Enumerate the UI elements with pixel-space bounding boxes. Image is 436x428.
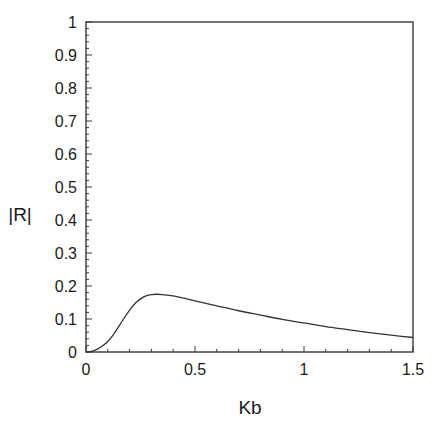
y-tick-label: 0.6 [55, 146, 77, 163]
y-axis-ticks [86, 22, 92, 352]
x-axis-ticks [86, 346, 413, 352]
y-tick-label: 0.5 [55, 179, 77, 196]
y-tick-label: 1 [68, 14, 77, 31]
y-tick-label: 0.2 [55, 278, 77, 295]
plot-frame [86, 22, 413, 352]
reflection-magnitude-curve [86, 294, 413, 352]
y-axis-label: |R| [8, 204, 32, 225]
y-tick-label: 0.8 [55, 80, 77, 97]
line-chart: 00.10.20.30.40.50.60.70.80.91 00.511.5 |… [0, 0, 436, 428]
x-tick-label: 0 [82, 361, 91, 378]
y-tick-label: 0.7 [55, 113, 77, 130]
y-tick-label: 0.3 [55, 245, 77, 262]
x-tick-label: 1.5 [402, 361, 424, 378]
y-tick-label: 0 [68, 344, 77, 361]
x-tick-label: 0.5 [184, 361, 206, 378]
plot-border [86, 22, 413, 352]
y-tick-label: 0.4 [55, 212, 77, 229]
x-axis-label: Kb [238, 397, 261, 418]
y-tick-label: 0.9 [55, 47, 77, 64]
y-tick-label: 0.1 [55, 311, 77, 328]
y-axis-tick-labels: 00.10.20.30.40.50.60.70.80.91 [55, 14, 77, 361]
x-axis-tick-labels: 00.511.5 [82, 361, 425, 378]
x-tick-label: 1 [300, 361, 309, 378]
